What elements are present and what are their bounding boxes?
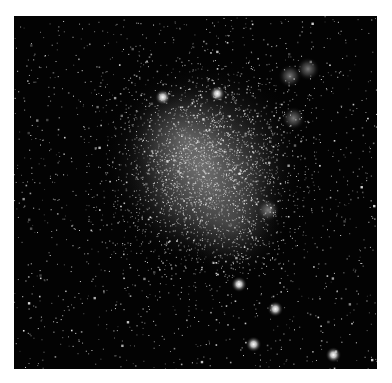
star-field (14, 16, 377, 369)
galaxy-photo (14, 16, 377, 369)
